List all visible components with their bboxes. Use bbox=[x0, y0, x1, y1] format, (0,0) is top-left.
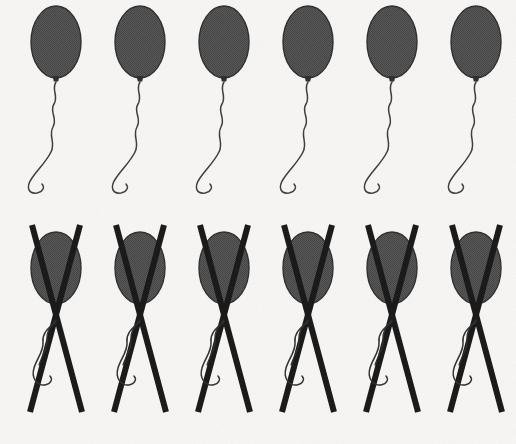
picture-canvas: Two rows of six dark balloons; the top r… bbox=[0, 0, 516, 444]
balloon-illustration bbox=[0, 0, 516, 444]
background bbox=[0, 0, 516, 444]
